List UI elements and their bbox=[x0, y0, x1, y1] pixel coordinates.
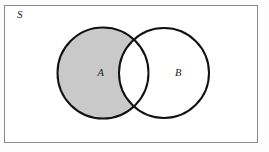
set-b-label: B bbox=[175, 67, 182, 78]
shaded-region-a-minus-b bbox=[0, 0, 269, 152]
set-a-label: A bbox=[97, 67, 105, 78]
venn-diagram-figure: S A B bbox=[0, 0, 269, 152]
venn-diagram-canvas: S A B bbox=[0, 0, 269, 152]
